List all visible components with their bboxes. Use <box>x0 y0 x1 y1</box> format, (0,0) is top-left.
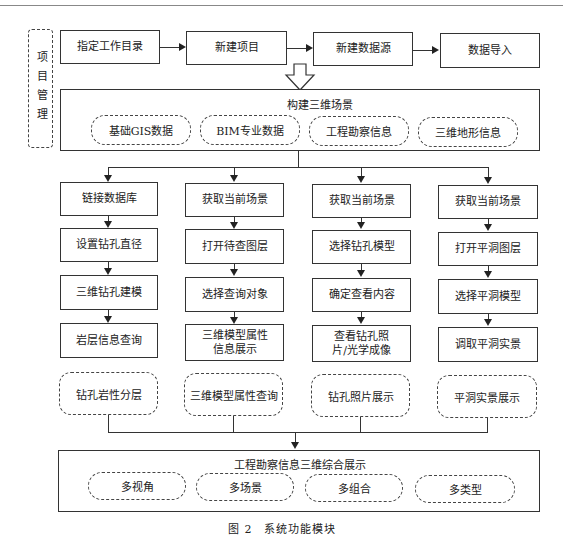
final-item-label: 多场景 <box>229 479 262 495</box>
arrow-down-icon <box>230 222 238 229</box>
step-label: 三维钻孔建模 <box>76 286 142 300</box>
col3-step-2: 选择钻孔模型 <box>312 230 411 264</box>
final-item-multi-view: 多视角 <box>88 472 186 500</box>
step-label: 获取当前场景 <box>202 193 268 207</box>
step-label: 调取平洞实景 <box>455 338 521 352</box>
top-step-4: 数据导入 <box>440 33 540 68</box>
arrow-down-icon <box>291 442 299 449</box>
arrow-down-icon <box>230 269 238 276</box>
step-label: 查看钻孔照片/光学成像 <box>331 330 392 358</box>
step-label: 打开待查图层 <box>202 240 268 254</box>
col4-result: 平洞实景展示 <box>437 375 537 418</box>
arrow-right-icon <box>306 44 313 52</box>
top-step-4-label: 数据导入 <box>468 44 512 58</box>
step-label: 打开平洞图层 <box>455 242 521 256</box>
final-item-multi-type: 多类型 <box>415 475 515 503</box>
col3-step-3: 确定查看内容 <box>312 278 411 312</box>
arrow-right-icon <box>432 46 439 54</box>
arrow-down-icon <box>357 270 365 277</box>
top-step-2: 新建项目 <box>186 31 287 65</box>
top-step-2-label: 新建项目 <box>215 41 259 55</box>
col1-step-4: 岩层信息查询 <box>60 323 158 358</box>
arrow-down-icon <box>357 222 365 229</box>
final-item-label: 多类型 <box>449 481 482 497</box>
top-step-3-label: 新建数据源 <box>336 42 391 56</box>
final-item-multi-combo: 多组合 <box>305 474 403 502</box>
scene-item-label: 工程勘察信息 <box>326 123 392 139</box>
step-label: 选择查询对象 <box>202 288 268 302</box>
col1-result: 钻孔岩性分层 <box>59 372 158 415</box>
top-step-1: 指定工作目录 <box>60 30 160 64</box>
scene-item-gis: 基础GIS数据 <box>91 115 191 145</box>
col2-step-2: 打开待查图层 <box>185 229 284 264</box>
result-label: 三维模型属性查询 <box>190 387 278 403</box>
step-label: 确定查看内容 <box>329 288 395 302</box>
hollow-down-arrow-icon <box>284 63 316 91</box>
arrow-down-icon <box>484 224 492 231</box>
connector <box>487 418 488 433</box>
col2-step-3: 选择查询对象 <box>185 277 284 312</box>
connector <box>413 50 433 51</box>
result-label: 钻孔岩性分层 <box>76 386 142 402</box>
arrow-down-icon <box>484 319 492 326</box>
arrow-down-icon <box>357 176 365 183</box>
step-label: 设置钻孔直径 <box>76 238 142 252</box>
scene-item-survey: 工程勘察信息 <box>309 116 409 146</box>
connector <box>360 417 361 433</box>
final-item-label: 多视角 <box>121 478 154 494</box>
col2-step-1: 获取当前场景 <box>185 183 284 217</box>
col1-step-2: 设置钻孔直径 <box>60 228 158 262</box>
connector <box>233 416 234 433</box>
top-rule <box>0 5 563 6</box>
arrow-right-icon <box>179 43 186 51</box>
arrow-down-icon <box>484 177 492 184</box>
scene-item-label: 三维地形信息 <box>435 124 501 140</box>
scene-item-label: BIM专业数据 <box>216 122 284 138</box>
final-item-multi-scene: 多场景 <box>196 473 294 501</box>
arrow-down-icon <box>357 317 365 324</box>
top-step-3: 新建数据源 <box>313 32 413 66</box>
connector <box>108 415 109 433</box>
col3-step-4: 查看钻孔照片/光学成像 <box>312 325 411 362</box>
col3-step-1: 获取当前场景 <box>312 184 411 218</box>
final-item-label: 多组合 <box>338 480 371 496</box>
col4-step-3: 选择平洞模型 <box>438 279 538 314</box>
top-step-1-label: 指定工作目录 <box>77 40 143 54</box>
arrow-down-icon <box>230 175 238 182</box>
figure-caption: 图 2 系统功能模块 <box>228 520 337 536</box>
col1-step-1: 链接数据库 <box>60 182 158 216</box>
result-label: 钻孔照片展示 <box>328 388 394 404</box>
arrow-down-icon <box>230 317 238 324</box>
scene-item-terrain: 三维地形信息 <box>418 117 518 147</box>
connector <box>298 151 299 168</box>
col4-step-2: 打开平洞图层 <box>438 232 538 266</box>
step-label: 三维模型属性信息展示 <box>200 329 269 357</box>
result-label: 平洞实景展示 <box>454 389 520 405</box>
branch-line <box>108 167 488 168</box>
final-title: 工程勘察信息三维综合展示 <box>225 456 375 472</box>
arrow-down-icon <box>104 221 112 228</box>
step-label: 获取当前场景 <box>455 195 521 209</box>
step-label: 链接数据库 <box>82 192 137 206</box>
step-label: 选择平洞模型 <box>455 290 521 304</box>
scene-item-label: 基础GIS数据 <box>109 122 174 138</box>
col3-result: 钻孔照片展示 <box>311 374 410 417</box>
col4-step-1: 获取当前场景 <box>438 185 538 219</box>
project-management-box: 项目管理 <box>28 29 53 148</box>
col4-step-4: 调取平洞实景 <box>438 327 538 362</box>
col1-step-3: 三维钻孔建模 <box>60 275 158 310</box>
col2-step-4: 三维模型属性信息展示 <box>185 324 284 361</box>
step-label: 选择钻孔模型 <box>329 240 395 254</box>
step-label: 岩层信息查询 <box>76 334 142 348</box>
arrow-down-icon <box>484 271 492 278</box>
connector <box>160 47 180 48</box>
merge-line <box>108 432 488 433</box>
scene-item-bim: BIM专业数据 <box>200 115 300 145</box>
project-management-label: 项目管理 <box>33 51 49 127</box>
col2-result: 三维模型属性查询 <box>184 373 283 416</box>
arrow-down-icon <box>104 268 112 275</box>
step-label: 获取当前场景 <box>329 194 395 208</box>
arrow-down-icon <box>104 175 112 182</box>
arrow-down-icon <box>104 316 112 323</box>
build-scene-title: 构建三维场景 <box>260 96 380 112</box>
